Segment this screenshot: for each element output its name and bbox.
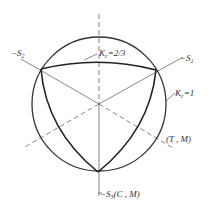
curve-left <box>41 69 98 172</box>
label-kc-outer: Kc=1 <box>174 88 194 99</box>
failure-criterion-diagram: −S2 −S1 Kc=2/3 Kc=1 (T , M) −S3(C , M) <box>0 0 214 211</box>
leader-kc-outer <box>166 93 175 101</box>
label-s3: −S3(C , M) <box>100 189 140 200</box>
dashed-axis-lower-left <box>23 104 99 148</box>
label-s1: −S1 <box>180 53 194 64</box>
label-s2: −S2 <box>11 48 25 59</box>
label-kc-inner: Kc=2/3 <box>98 48 126 59</box>
curve-top <box>41 62 156 70</box>
leader-kc-inner <box>84 54 97 60</box>
label-tm: (T , M) <box>166 134 191 144</box>
